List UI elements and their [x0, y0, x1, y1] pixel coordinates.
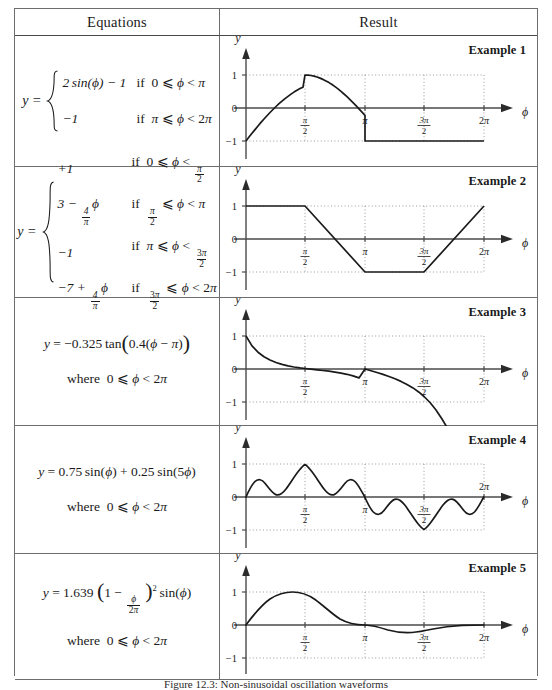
svg-text:2π: 2π: [479, 481, 490, 492]
case-row: 3 − 4πϕ if π2 ⩽ ϕ < π: [58, 195, 217, 227]
header-result: Result: [220, 9, 537, 35]
svg-text:1: 1: [232, 587, 237, 598]
axes: [234, 309, 513, 420]
tick-labels: y ϕ 1 0 −1 π 2 π 3π 2 2π: [226, 167, 528, 278]
svg-text:π: π: [362, 632, 368, 643]
svg-text:3π: 3π: [418, 632, 429, 642]
equation-body: y = −0.325 tan(0.4(ϕ − π)): [44, 335, 190, 353]
chart-example-5: y ϕ 1 0 −1 π 2 π 3π 2 2π: [220, 554, 537, 679]
svg-text:2: 2: [303, 126, 308, 136]
equation-cell-3: y = −0.325 tan(0.4(ϕ − π)) where 0 ⩽ ϕ <…: [15, 298, 220, 425]
svg-text:1: 1: [232, 459, 237, 470]
equation-cell-2: y = +1 if 0 ⩽ ϕ < π2 3 − 4πϕ: [15, 167, 220, 297]
svg-text:0: 0: [232, 103, 237, 114]
tick-labels: y ϕ 1 0 −1 π 2 π 3π 2 2π: [226, 298, 528, 408]
svg-text:y: y: [234, 36, 241, 45]
header-equations: Equations: [15, 9, 220, 35]
svg-text:2: 2: [422, 126, 427, 136]
equation-cell-5: y = 1.639 (1 − ϕ2π )2 sin(ϕ) where 0 ⩽ ϕ…: [15, 554, 220, 679]
svg-text:3π: 3π: [418, 504, 429, 514]
case-row: −1 if π ⩽ ϕ < 2π: [62, 110, 211, 128]
svg-text:π: π: [303, 246, 308, 256]
case-expression: −1: [62, 110, 136, 128]
axes: [234, 48, 513, 159]
equation-body: y = 0.75 sin(ϕ) + 0.25 sin(5ϕ): [38, 463, 196, 481]
figure-caption: Figure 12.3: Non-sinusoidal oscillation …: [0, 678, 552, 690]
case-expression: +1: [58, 160, 132, 178]
svg-text:2π: 2π: [479, 632, 490, 643]
result-cell-5: Example 5: [220, 554, 537, 679]
tick-labels: y ϕ 1 0 −1 π 2 π 3π 2 2π: [226, 554, 528, 664]
result-cell-3: Example 3: [220, 298, 537, 425]
table-row: y = −0.325 tan(0.4(ϕ − π)) where 0 ⩽ ϕ <…: [15, 298, 537, 426]
chart-svg: y ϕ 1 0 −1 π 2 π 3π 2 2π: [220, 426, 538, 554]
svg-text:2π: 2π: [479, 246, 490, 257]
svg-text:0: 0: [232, 234, 237, 245]
table-row: y = 1.639 (1 − ϕ2π )2 sin(ϕ) where 0 ⩽ ϕ…: [15, 554, 537, 680]
table-row: y = +1 if 0 ⩽ ϕ < π2 3 − 4πϕ: [15, 167, 537, 298]
svg-text:3π: 3π: [418, 376, 429, 386]
case-condition: if 0 ⩽ ϕ < π2: [132, 153, 206, 185]
svg-text:ϕ: ϕ: [522, 622, 528, 636]
svg-text:y: y: [234, 298, 241, 306]
svg-text:ϕ: ϕ: [522, 105, 528, 119]
svg-text:−1: −1: [226, 525, 237, 536]
case-condition: if π ⩽ ϕ < 2π: [136, 110, 211, 128]
svg-text:2: 2: [303, 515, 308, 525]
svg-text:π: π: [303, 632, 308, 642]
chart-svg: y ϕ 1 0 −1 π 2 π 3π 2 2π: [220, 554, 538, 680]
examples-table: Equations Result y = 2 sin(ϕ) − 1 if 0 ⩽…: [14, 8, 538, 676]
svg-text:2: 2: [303, 643, 308, 653]
axes: [234, 179, 513, 290]
result-cell-1: Example 1: [220, 36, 537, 166]
curve-tangent: [246, 336, 365, 380]
svg-text:−1: −1: [226, 397, 237, 408]
case-condition: if π ⩽ ϕ < 3π2: [132, 237, 210, 269]
svg-text:−1: −1: [226, 653, 237, 664]
case-row: −1 if π ⩽ ϕ < 3π2: [58, 237, 217, 269]
case-row: +1 if 0 ⩽ ϕ < π2: [58, 153, 217, 185]
svg-text:ϕ: ϕ: [522, 494, 528, 508]
equation-1: y = 2 sin(ϕ) − 1 if 0 ⩽ ϕ < π −1 if π ⩽ …: [22, 70, 212, 132]
svg-text:y: y: [234, 554, 241, 562]
result-cell-4: Example 4: [220, 426, 537, 553]
chart-svg: y ϕ 1 0 −1 π 2 π 3π 2 2π: [220, 167, 538, 298]
svg-text:1: 1: [232, 201, 237, 212]
equation-where: where 0 ⩽ ϕ < 2π: [43, 632, 192, 650]
svg-text:2: 2: [422, 515, 427, 525]
case-expression: 3 − 4πϕ: [58, 195, 132, 227]
svg-text:ϕ: ϕ: [522, 366, 528, 380]
curve: [246, 336, 448, 426]
svg-text:−1: −1: [226, 267, 237, 278]
equation-where: where 0 ⩽ ϕ < 2π: [38, 498, 196, 516]
svg-text:1: 1: [232, 331, 237, 342]
equation-where: where 0 ⩽ ϕ < 2π: [44, 370, 190, 388]
svg-text:y: y: [234, 167, 241, 176]
equation-3: y = −0.325 tan(0.4(ϕ − π)) where 0 ⩽ ϕ <…: [44, 335, 190, 388]
tick-labels: y ϕ 1 0 −1 π 2 π 3π 2 2π: [226, 36, 528, 147]
svg-text:π: π: [362, 376, 368, 387]
svg-text:3π: 3π: [418, 246, 429, 256]
svg-text:2π: 2π: [479, 376, 490, 387]
svg-text:0: 0: [232, 620, 237, 631]
equation-2: y = +1 if 0 ⩽ ϕ < π2 3 − 4πϕ: [17, 153, 216, 311]
svg-text:y: y: [234, 426, 241, 434]
chart-svg: y ϕ 1 0 −1 π 2 π 3π 2 2π: [220, 298, 538, 426]
svg-text:π: π: [362, 504, 368, 515]
svg-text:1: 1: [232, 70, 237, 81]
chart-example-3: y ϕ 1 0 −1 π 2 π 3π 2 2π: [220, 298, 537, 425]
equation-lhs: y =: [22, 92, 44, 111]
tick-labels: y ϕ 1 0 −1 π 2 π 3π 2 2π: [226, 426, 528, 536]
svg-text:0: 0: [232, 492, 237, 503]
brace-icon: [42, 181, 56, 283]
svg-text:3π: 3π: [418, 115, 429, 125]
equation-cell-1: y = 2 sin(ϕ) − 1 if 0 ⩽ ϕ < π −1 if π ⩽ …: [15, 36, 220, 166]
svg-text:2π: 2π: [479, 115, 490, 126]
svg-text:π: π: [303, 504, 308, 514]
case-condition: if π2 ⩽ ϕ < π: [132, 195, 206, 227]
axes: [234, 437, 513, 548]
case-row: 2 sin(ϕ) − 1 if 0 ⩽ ϕ < π: [62, 74, 211, 92]
svg-text:2: 2: [303, 257, 308, 267]
table-row: y = 0.75 sin(ϕ) + 0.25 sin(5ϕ) where 0 ⩽…: [15, 426, 537, 554]
equation-5: y = 1.639 (1 − ϕ2π )2 sin(ϕ) where 0 ⩽ ϕ…: [43, 583, 192, 651]
